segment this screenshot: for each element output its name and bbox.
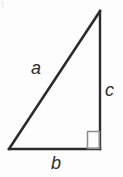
hypotenuse-line-a — [9, 11, 100, 149]
right-triangle-diagram: a c b — [0, 0, 123, 177]
right-angle-marker-icon — [88, 132, 100, 149]
side-label-b: b — [51, 154, 61, 172]
side-label-c: c — [105, 81, 114, 99]
side-label-a: a — [31, 59, 41, 77]
